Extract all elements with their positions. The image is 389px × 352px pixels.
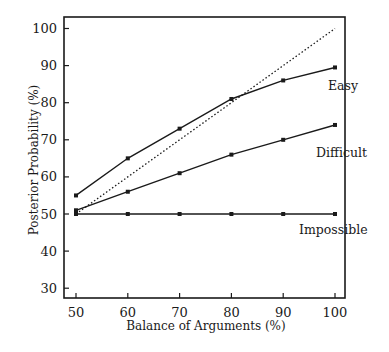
y-tick-label: 70: [40, 132, 57, 147]
data-point-difficult: [74, 208, 78, 212]
series-label-easy: Easy: [328, 78, 359, 93]
series-label-impossible: Impossible: [299, 222, 368, 237]
data-point-easy: [74, 193, 78, 197]
x-tick-label: 60: [120, 305, 137, 320]
x-tick-label: 90: [275, 305, 292, 320]
y-tick-label: 90: [40, 58, 57, 73]
x-tick-label: 100: [323, 305, 348, 320]
x-tick-label: 80: [223, 305, 240, 320]
series-label-difficult: Difficult: [316, 145, 367, 160]
data-point-easy: [281, 78, 285, 82]
data-point-difficult: [178, 171, 182, 175]
series-layer: [74, 29, 337, 217]
plot-border: [64, 17, 345, 298]
plot-frame: [64, 17, 345, 298]
data-point-easy: [229, 97, 233, 101]
x-tick-label: 50: [68, 305, 85, 320]
y-tick-label: 50: [40, 207, 57, 222]
data-point-impossible: [126, 212, 130, 216]
data-point-easy: [126, 156, 130, 160]
data-point-impossible: [229, 212, 233, 216]
x-axis-ticks: 5060708090100: [68, 293, 348, 320]
x-axis-title: Balance of Arguments (%): [126, 319, 285, 333]
data-point-easy: [178, 127, 182, 131]
y-tick-label: 60: [40, 169, 57, 184]
series-line-diagonal-x-y: [76, 29, 335, 215]
data-point-difficult: [229, 153, 233, 157]
data-point-impossible: [333, 212, 337, 216]
y-tick-label: 30: [40, 281, 57, 296]
data-point-difficult: [126, 190, 130, 194]
data-point-impossible: [281, 212, 285, 216]
x-tick-label: 70: [171, 305, 188, 320]
y-tick-label: 40: [40, 244, 57, 259]
data-point-easy: [333, 65, 337, 69]
line-chart: 30405060708090100 5060708090100 Balance …: [0, 0, 389, 352]
y-tick-label: 80: [40, 95, 57, 110]
data-point-difficult: [333, 123, 337, 127]
y-tick-label: 100: [32, 21, 57, 36]
data-point-impossible: [178, 212, 182, 216]
data-point-difficult: [281, 138, 285, 142]
y-axis-title: Posterior Probability (%): [27, 85, 41, 236]
series-line-easy: [76, 68, 335, 196]
